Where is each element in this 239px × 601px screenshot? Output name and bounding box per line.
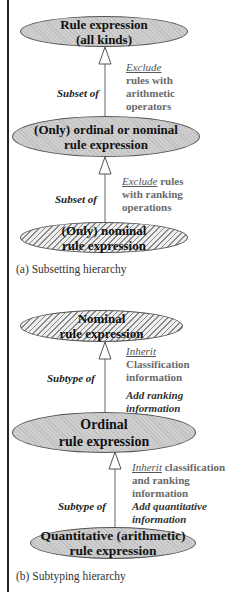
note-line: with ranking bbox=[122, 188, 183, 201]
node-ordinal-or-nominal-rule-expression: (Only) ordinal or nominal rule expressio… bbox=[12, 116, 200, 157]
note-keyword-suffix: rules bbox=[157, 175, 183, 187]
node-label-line1: Quantitative (arithmetic) bbox=[40, 528, 185, 543]
node-label-line1: (Only) ordinal or nominal bbox=[34, 122, 178, 137]
note-keyword-suffix: classification bbox=[162, 461, 225, 473]
note-line: and ranking bbox=[132, 474, 225, 487]
note-add-line: information bbox=[132, 513, 225, 526]
note-line: operators bbox=[126, 100, 175, 113]
node-label-line2: rule expression bbox=[62, 238, 147, 253]
note-line: Classification bbox=[126, 358, 190, 371]
edge-note-exclude-arithmetic: Exclude rules with arithmetic operators bbox=[126, 61, 175, 113]
caption-subtyping-hierarchy: (b) Subtyping hierarchy bbox=[16, 570, 126, 582]
node-nominal-rule-expression-subset: (Only) nominal rule expression bbox=[20, 222, 188, 253]
node-label-line1: Nominal bbox=[60, 311, 144, 326]
edge-label-subset-of-2: Subset of bbox=[55, 193, 97, 205]
caption-subsetting-hierarchy: (a) Subsetting hierarchy bbox=[16, 263, 127, 275]
edge-note-inherit-classification: Inherit Classification information Add r… bbox=[126, 345, 190, 415]
generalization-arrow-3 bbox=[99, 342, 111, 412]
node-label-line2: rule expression bbox=[59, 433, 149, 450]
generalization-arrow-1 bbox=[99, 47, 111, 116]
note-keyword: Exclude bbox=[126, 61, 161, 73]
node-quantitative-rule-expression: Quantitative (arithmetic) rule expressio… bbox=[30, 527, 196, 559]
edge-note-inherit-classification-ranking: Inherit classification and ranking infor… bbox=[132, 461, 225, 526]
note-add-line: Add ranking bbox=[126, 389, 190, 402]
node-label-line1: Ordinal bbox=[59, 416, 149, 433]
node-label-line1: (Only) nominal bbox=[62, 223, 147, 238]
note-line: information bbox=[126, 371, 190, 384]
generalization-arrow-4 bbox=[109, 452, 121, 527]
note-keyword: Inherit bbox=[126, 345, 156, 357]
edge-label-subtype-of-2: Subtype of bbox=[58, 500, 106, 512]
note-keyword: Inherit bbox=[132, 461, 162, 473]
node-label-line2: rule expression bbox=[60, 326, 144, 341]
note-line: information bbox=[132, 487, 225, 500]
note-line: arithmetic bbox=[126, 87, 175, 100]
generalization-arrow-2 bbox=[99, 157, 111, 222]
node-label-line2: rule expression bbox=[34, 137, 178, 152]
node-label-line1: Rule expression bbox=[60, 17, 148, 32]
edge-label-subset-of-1: Subset of bbox=[57, 87, 99, 99]
node-nominal-rule-expression: Nominal rule expression bbox=[20, 310, 183, 342]
note-add-line: Add quantitative bbox=[132, 500, 225, 513]
edge-label-subtype-of-1: Subtype of bbox=[47, 372, 95, 384]
note-line: operations bbox=[122, 201, 183, 214]
note-keyword: Exclude bbox=[122, 175, 157, 187]
node-label-line2: rule expression bbox=[40, 543, 185, 558]
node-label-line2: (all kinds) bbox=[60, 32, 148, 47]
edge-note-exclude-ranking: Exclude rules with ranking operations bbox=[122, 175, 183, 214]
node-rule-expression-all-kinds: Rule expression (all kinds) bbox=[20, 16, 188, 47]
note-line: rules with bbox=[126, 74, 175, 87]
node-ordinal-rule-expression: Ordinal rule expression bbox=[12, 412, 196, 453]
